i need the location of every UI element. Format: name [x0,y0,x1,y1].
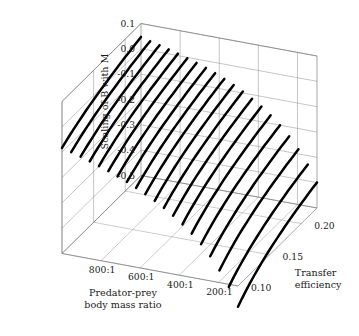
z-axis-title: Scaling of B with M [99,53,110,149]
x-axis-tick-label: 200:1 [206,286,232,297]
z-axis-tick-label: 0.1 [120,18,135,29]
z-axis-tick-label: -0.5 [117,170,135,181]
surface-mesh-curve [71,41,150,152]
y-axis-tick-label: 0.20 [314,220,335,231]
x-axis-title-line2: body mass ratio [84,299,161,310]
plot-canvas: 0.10.0-0.1-0.2-0.3-0.4-0.5Scaling of B w… [0,0,359,336]
y-axis-title-line2: efficiency [295,279,342,290]
z-axis-tick-label: -0.4 [117,144,135,155]
z-axis-tick-label: -0.3 [117,119,135,130]
y-axis-title-line1: Transfer [295,267,337,278]
left-wall-horizontal-gridline [141,49,317,82]
x-axis-tick-label: 800:1 [89,264,115,275]
y-axis-tick-label: 0.15 [283,251,304,262]
x-axis-tick-label: 600:1 [128,271,154,282]
x-axis-title-line1: Predator-prey [89,287,157,298]
z-axis-tick-label: -0.2 [117,94,135,105]
floor-gridline-ratio [101,183,180,261]
x-axis-tick-label: 400:1 [167,279,193,290]
y-axis-tick-label: 0.10 [251,282,272,293]
z-axis-tick-label: 0.0 [120,43,135,54]
figure-3d-surface-plot: 0.10.0-0.1-0.2-0.3-0.4-0.5Scaling of B w… [0,0,359,336]
axis-box-edge [62,176,141,254]
z-axis-tick-label: -0.1 [117,68,135,79]
